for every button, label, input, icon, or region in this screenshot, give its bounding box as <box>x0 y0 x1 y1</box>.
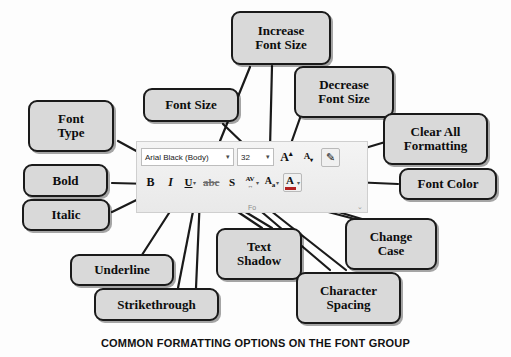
font-group-row-top: Arial Black (Body) ▾ 32 ▾ A▴ A▾ ✎ <box>141 146 340 168</box>
strikethrough-icon: abc <box>203 176 220 188</box>
change-case-dropdown-icon[interactable]: ▾ <box>276 179 279 186</box>
callout-bold-label: Bold <box>52 174 78 188</box>
dialog-box-launcher[interactable]: ⌄ <box>357 203 363 211</box>
underline-icon: U <box>185 176 193 188</box>
leader-increase-font-size <box>270 66 272 148</box>
character-spacing-button[interactable]: AV↔ ▾ <box>243 173 262 192</box>
callout-italic-label: Italic <box>52 208 81 222</box>
callout-font-color[interactable]: Font Color <box>399 168 497 200</box>
callout-strikethrough-label: Strikethrough <box>117 298 196 312</box>
callout-clear-all-formatting[interactable]: Clear All Formatting <box>383 113 488 165</box>
callout-change-case[interactable]: Change Case <box>345 218 437 270</box>
callout-change-case-label: Change Case <box>370 230 413 258</box>
increase-font-size-icon: A▴ <box>280 150 293 165</box>
character-spacing-icon: AV↔ <box>245 176 254 189</box>
font-group-row-bottom: B I U ▾ abc S AV↔ ▾ Aa ▾ <box>141 171 302 193</box>
callout-font-color-label: Font Color <box>417 177 478 191</box>
underline-dropdown-icon[interactable]: ▾ <box>193 179 196 186</box>
callout-font-type-label: Font Type <box>57 112 84 140</box>
text-shadow-button[interactable]: S <box>223 173 242 192</box>
callout-decrease-font-size[interactable]: Decrease Font Size <box>294 66 394 118</box>
font-name-input[interactable]: Arial Black (Body) ▾ <box>141 148 234 166</box>
font-group-ribbon: Arial Black (Body) ▾ 32 ▾ A▴ A▾ ✎ B <box>136 141 368 213</box>
font-color-dropdown-icon[interactable]: ▾ <box>297 179 300 186</box>
increase-font-size-button[interactable]: A▴ <box>277 148 296 167</box>
callout-text-shadow-label: Text Shadow <box>237 240 281 268</box>
callout-character-spacing[interactable]: Character Spacing <box>296 272 401 324</box>
clear-formatting-icon: ✎ <box>326 151 335 164</box>
callout-increase-font-size-label: Increase Font Size <box>255 24 307 52</box>
callout-text-shadow[interactable]: Text Shadow <box>216 228 302 280</box>
change-case-icon: Aa <box>265 175 276 189</box>
change-case-button[interactable]: Aa ▾ <box>263 173 282 192</box>
font-color-icon: A <box>285 175 296 190</box>
italic-button[interactable]: I <box>161 173 180 192</box>
callout-underline[interactable]: Underline <box>70 254 174 286</box>
callout-underline-label: Underline <box>94 263 150 277</box>
font-name-value: Arial Black (Body) <box>142 153 212 162</box>
font-size-value: 32 <box>238 153 253 162</box>
font-size-dropdown-icon[interactable]: ▾ <box>263 153 273 161</box>
callout-font-size[interactable]: Font Size <box>143 88 239 122</box>
font-group-label: Fo <box>137 204 367 211</box>
character-spacing-dropdown-icon[interactable]: ▾ <box>256 179 259 186</box>
callout-character-spacing-label: Character Spacing <box>320 284 377 312</box>
callout-decrease-font-size-label: Decrease Font Size <box>318 78 370 106</box>
callout-font-size-label: Font Size <box>165 98 217 112</box>
diagram-canvas: Arial Black (Body) ▾ 32 ▾ A▴ A▾ ✎ B <box>0 0 511 357</box>
font-color-button[interactable]: A ▾ <box>283 173 302 192</box>
font-size-input[interactable]: 32 ▾ <box>237 148 274 166</box>
text-shadow-icon: S <box>229 176 235 188</box>
figure-caption: COMMON FORMATTING OPTIONS ON THE FONT GR… <box>0 337 511 349</box>
font-name-dropdown-icon[interactable]: ▾ <box>223 153 233 161</box>
callout-font-type[interactable]: Font Type <box>28 100 114 152</box>
bold-button[interactable]: B <box>141 173 160 192</box>
clear-all-formatting-button[interactable]: ✎ <box>321 148 340 167</box>
decrease-font-size-icon: A▾ <box>304 151 314 163</box>
callout-bold[interactable]: Bold <box>23 164 108 197</box>
callout-strikethrough[interactable]: Strikethrough <box>94 288 219 321</box>
italic-icon: I <box>168 175 173 190</box>
callout-italic[interactable]: Italic <box>22 199 110 231</box>
bold-icon: B <box>146 175 154 190</box>
strikethrough-button[interactable]: abc <box>201 173 222 192</box>
underline-button[interactable]: U ▾ <box>181 173 200 192</box>
decrease-font-size-button[interactable]: A▾ <box>299 148 318 167</box>
callout-clear-all-formatting-label: Clear All Formatting <box>404 125 468 153</box>
callout-increase-font-size[interactable]: Increase Font Size <box>231 11 331 65</box>
